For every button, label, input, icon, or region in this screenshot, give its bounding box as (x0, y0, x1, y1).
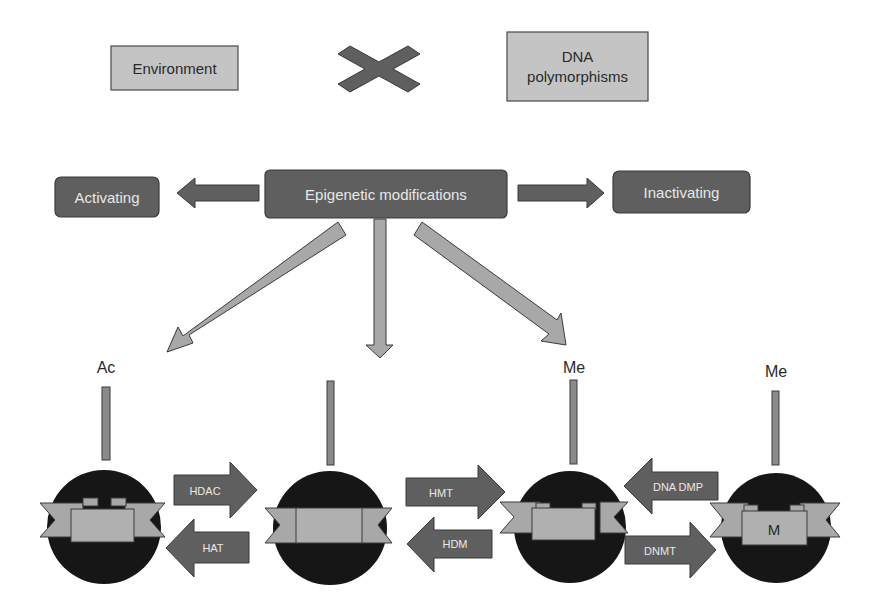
dna-label-line1: DNA (562, 48, 594, 65)
histone-tail (570, 380, 577, 464)
nucleosome-acetylated: Ac (40, 359, 165, 584)
nucleosome-unmodified (265, 381, 392, 585)
inactivating-box: Inactivating (613, 171, 750, 213)
hmt-arrow: HMT (406, 465, 505, 519)
methyl-mark-label: Me (563, 359, 585, 376)
dnmt-arrow: DNMT (625, 522, 716, 578)
arrow-down-left (167, 222, 346, 352)
acetyl-mark-label: Ac (97, 359, 116, 376)
arrow-to-inactivating (518, 178, 604, 208)
arrow-down-center (366, 219, 393, 358)
dna-methyl-label: M (768, 521, 781, 538)
hat-label: HAT (202, 542, 223, 554)
inactivating-label: Inactivating (644, 184, 720, 201)
arrow-down-right (414, 222, 566, 345)
dna-label-line2: polymorphisms (527, 68, 628, 85)
environment-label: Environment (132, 60, 217, 77)
epigenetic-modifications-label: Epigenetic modifications (305, 186, 467, 203)
dna-dmp-label: DNA DMP (653, 481, 703, 493)
dna-polymorphisms-box: DNA polymorphisms (507, 32, 648, 101)
histone-tail (327, 381, 334, 465)
hmt-label: HMT (429, 487, 453, 499)
cross-icon (338, 46, 420, 92)
nucleosome-histone-methylated: Me (500, 359, 628, 583)
dna-ribbon-right (360, 508, 392, 543)
activating-box: Activating (55, 177, 159, 217)
dnmt-label: DNMT (644, 545, 676, 557)
hat-arrow: HAT (166, 519, 249, 577)
hdac-arrow: HDAC (174, 462, 257, 518)
epigenetic-modifications-box: Epigenetic modifications (265, 170, 507, 218)
methyl-mark-label-2: Me (765, 363, 787, 380)
dna-ribbon-left (265, 508, 298, 543)
nucleosome-dna-methylated: Me M (710, 363, 840, 583)
environment-box: Environment (111, 46, 238, 90)
histone-tail (102, 387, 110, 460)
dna-wrap (532, 508, 595, 540)
hdm-label: HDM (442, 538, 467, 550)
dna-dmp-arrow: DNA DMP (624, 458, 718, 514)
dna-wrap (71, 509, 134, 542)
histone-tail (772, 391, 779, 465)
arrow-to-activating (177, 178, 259, 208)
activating-label: Activating (74, 189, 139, 206)
dna-wrap (296, 508, 362, 543)
hdm-arrow: HDM (407, 517, 492, 572)
hdac-label: HDAC (189, 485, 220, 497)
epigenetics-diagram: Environment DNA polymorphisms Activating… (0, 0, 882, 602)
